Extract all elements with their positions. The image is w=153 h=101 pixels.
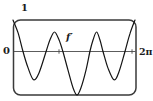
- curve-path: [13, 20, 135, 95]
- figure-canvas: 1 0 2π f′: [0, 0, 153, 101]
- plot-frame: [14, 20, 137, 95]
- curve-label: f′: [66, 32, 73, 42]
- origin-label: 0: [3, 46, 10, 56]
- plot-svg: [0, 0, 153, 101]
- y-max-label: 1: [21, 3, 28, 13]
- x-max-label: 2π: [139, 47, 153, 57]
